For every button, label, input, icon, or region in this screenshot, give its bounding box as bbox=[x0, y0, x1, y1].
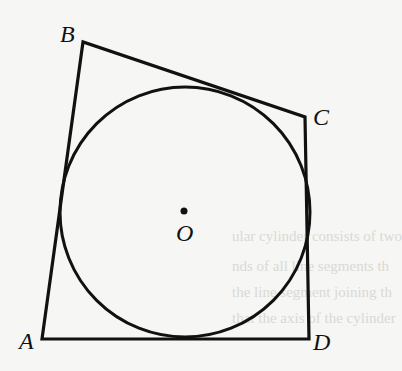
label-c: C bbox=[313, 104, 330, 130]
label-a: A bbox=[17, 328, 34, 354]
label-b: B bbox=[60, 21, 75, 47]
label-o: O bbox=[176, 220, 193, 246]
label-d: D bbox=[312, 329, 330, 355]
center-point bbox=[181, 208, 188, 215]
